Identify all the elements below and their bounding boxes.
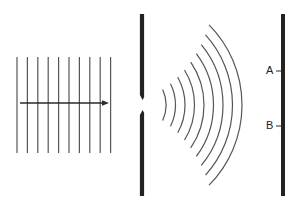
screen-bar [281, 14, 285, 196]
diffracted-wavefront [178, 77, 185, 133]
diagram-canvas [0, 0, 297, 210]
point-label-a: A [266, 65, 273, 76]
barrier-upper [140, 14, 144, 100]
diffracted-wavefront [191, 62, 204, 148]
arrow-head-icon [102, 100, 109, 106]
diffraction-diagram: A B [0, 0, 297, 210]
incident-plane-waves [17, 57, 111, 153]
diffracted-waves [163, 25, 242, 185]
diffracted-wavefront [163, 90, 166, 121]
detection-screen [276, 14, 285, 196]
point-label-b: B [266, 120, 273, 131]
barrier-lower [140, 110, 144, 196]
slit-barrier [140, 14, 144, 196]
diffracted-wavefront [185, 70, 195, 140]
propagation-arrow [20, 100, 109, 106]
diffracted-wavefront [196, 54, 213, 157]
diffracted-wavefront [170, 84, 175, 127]
